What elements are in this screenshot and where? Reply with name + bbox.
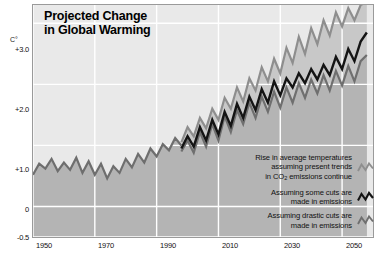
- x-tick-label: 1970: [98, 241, 114, 250]
- x-tick-label: 2030: [284, 241, 300, 250]
- x-tick-label: 1950: [36, 241, 52, 250]
- y-tick-label: +1.0: [2, 165, 29, 174]
- legend-item-drastic-cuts: Assuming drastic cuts are made in emissi…: [196, 211, 374, 230]
- chart-legend: Rise in average temperatures assuming pr…: [196, 153, 374, 235]
- zigzag-icon: [357, 214, 374, 227]
- y-tick-label: 0: [2, 205, 29, 214]
- legend-label: Assuming some cuts are made in emissions: [271, 188, 352, 207]
- page-title: Projected Change in Global Warming: [44, 10, 151, 37]
- legend-line-2: made in emissions: [291, 197, 352, 206]
- climate-projection-chart: C° +3.0 +2.0 +1.0 0 -0.5 1950 1970 1990 …: [0, 0, 378, 260]
- legend-item-present-trends: Rise in average temperatures assuming pr…: [196, 153, 374, 183]
- y-tick-label: +3.0: [2, 45, 29, 54]
- legend-line-2: made in emissions: [291, 221, 352, 230]
- legend-line-3-post: emissions continue: [287, 172, 352, 181]
- legend-label: Assuming drastic cuts are made in emissi…: [268, 211, 352, 230]
- y-tick-label: -0.5: [2, 233, 29, 242]
- legend-line-1: Assuming some cuts are: [271, 188, 352, 197]
- zigzag-icon: [357, 161, 374, 174]
- x-tick-label: 1990: [160, 241, 176, 250]
- chart-title-line-1: Projected Change: [44, 10, 151, 24]
- legend-line-1: Assuming drastic cuts are: [268, 211, 352, 220]
- x-tick-label: 2050: [346, 241, 362, 250]
- legend-line-1: Rise in average temperatures: [255, 153, 352, 162]
- legend-line-2: assuming present trends: [271, 162, 352, 171]
- x-tick-label: 2010: [222, 241, 238, 250]
- legend-line-3-pre: in CO: [265, 172, 284, 181]
- legend-label: Rise in average temperatures assuming pr…: [255, 153, 352, 183]
- y-tick-label: +2.0: [2, 105, 29, 114]
- chart-title-line-2: in Global Warming: [44, 24, 151, 38]
- zigzag-icon: [357, 191, 374, 204]
- legend-item-some-cuts: Assuming some cuts are made in emissions: [196, 188, 374, 207]
- y-axis-unit-label: C°: [10, 36, 18, 43]
